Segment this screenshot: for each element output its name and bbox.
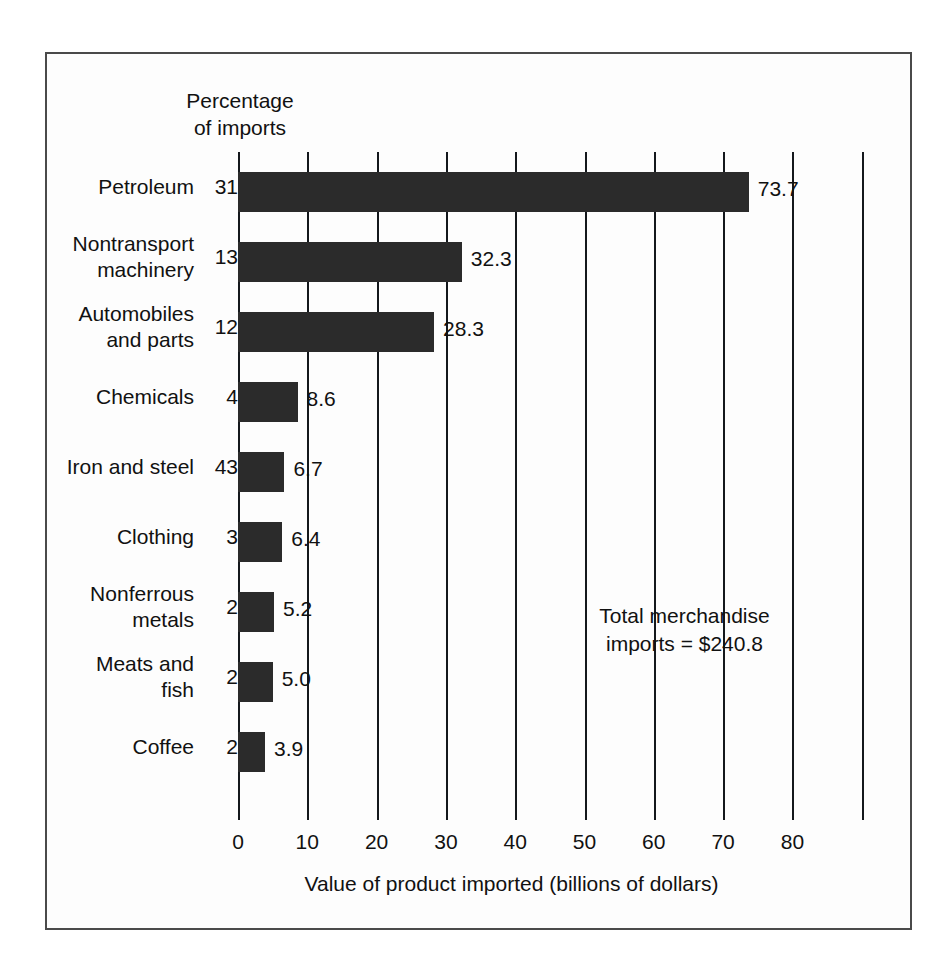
bar[interactable]: [238, 382, 298, 422]
category-name: Automobiles and parts: [78, 301, 194, 353]
x-axis-title-text: Value of product imported (billions of d…: [305, 872, 719, 896]
category-label-row: Petroleum31: [47, 152, 238, 222]
category-name: Petroleum: [98, 174, 194, 200]
bar[interactable]: [238, 172, 749, 212]
x-tick-label: 30: [434, 829, 457, 855]
bar-chart: Percentage of imports 73.732.328.38.66.7…: [47, 54, 910, 928]
bar[interactable]: [238, 662, 273, 702]
category-label-row: Clothing3: [47, 502, 238, 572]
total-imports-annotation: Total merchandise imports = $240.8: [567, 602, 802, 658]
category-label-row: Automobiles and parts12: [47, 292, 238, 362]
category-percentage: 4: [204, 384, 238, 410]
category-label-row: Nonferrous metals2: [47, 572, 238, 642]
x-tick-label: 0: [232, 829, 244, 855]
category-percentage: 13: [204, 244, 238, 270]
x-axis-tick-labels: 01020304050607080: [47, 829, 910, 859]
category-percentage: 43: [204, 454, 238, 480]
category-name: Clothing: [117, 524, 194, 550]
percentage-of-imports-header: Percentage of imports: [155, 87, 325, 141]
bar-value-label: 28.3: [443, 316, 484, 342]
bar-value-label: 5.2: [283, 596, 312, 622]
bar[interactable]: [238, 242, 462, 282]
category-labels: Petroleum31Nontransport machinery13Autom…: [47, 152, 238, 820]
category-percentage: 12: [204, 314, 238, 340]
bar[interactable]: [238, 452, 284, 492]
x-tick-label: 60: [642, 829, 665, 855]
category-label-row: Coffee2: [47, 712, 238, 782]
bar[interactable]: [238, 732, 265, 772]
category-percentage: 31: [204, 174, 238, 200]
bar-value-label: 3.9: [274, 736, 303, 762]
bar-value-label: 6.4: [291, 526, 320, 552]
bar[interactable]: [238, 522, 282, 562]
category-percentage: 3: [204, 524, 238, 550]
bar-value-label: 73.7: [758, 176, 799, 202]
x-tick-label: 80: [781, 829, 804, 855]
category-label-row: Iron and steel43: [47, 432, 238, 502]
x-tick-label: 40: [504, 829, 527, 855]
category-name: Chemicals: [96, 384, 194, 410]
bar[interactable]: [238, 592, 274, 632]
category-name: Meats and fish: [96, 651, 194, 703]
x-tick-label: 50: [573, 829, 596, 855]
x-tick-label: 70: [711, 829, 734, 855]
figure-frame: Percentage of imports 73.732.328.38.66.7…: [45, 52, 912, 930]
category-name: Nonferrous metals: [90, 581, 194, 633]
category-label-row: Chemicals4: [47, 362, 238, 432]
x-axis-title: Value of product imported (billions of d…: [47, 872, 910, 896]
category-percentage: 2: [204, 664, 238, 690]
category-label-row: Meats and fish2: [47, 642, 238, 712]
category-percentage: 2: [204, 594, 238, 620]
x-tick-label: 20: [365, 829, 388, 855]
bar-value-label: 32.3: [471, 246, 512, 272]
category-label-row: Nontransport machinery13: [47, 222, 238, 292]
category-percentage: 2: [204, 734, 238, 760]
bar[interactable]: [238, 312, 434, 352]
category-name: Iron and steel: [67, 454, 194, 480]
category-name: Coffee: [133, 734, 195, 760]
bar-value-label: 8.6: [307, 386, 336, 412]
bar-value-label: 5.0: [282, 666, 311, 692]
category-name: Nontransport machinery: [73, 231, 194, 283]
x-tick-label: 10: [296, 829, 319, 855]
bar-value-label: 6.7: [293, 456, 322, 482]
